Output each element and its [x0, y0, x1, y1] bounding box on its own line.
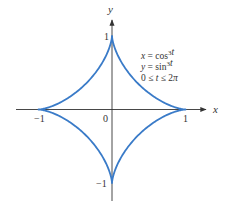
y-axis-label: y	[107, 3, 113, 15]
origin-label: 0	[103, 113, 108, 124]
x-axis-label: x	[212, 103, 218, 115]
equation-t-range: 0 ≤ t ≤ 2π	[141, 73, 178, 83]
x-tick-neg1: −1	[34, 113, 45, 124]
equation-annotation: x = cos3t y = sin3t 0 ≤ t ≤ 2π	[140, 47, 178, 83]
astroid-chart: x y −1 1 0 1 −1 x = cos3t y = sin3t 0 ≤ …	[0, 0, 231, 211]
y-tick-1: 1	[104, 31, 109, 42]
y-tick-neg1: −1	[96, 178, 107, 189]
x-tick-1: 1	[183, 113, 188, 124]
